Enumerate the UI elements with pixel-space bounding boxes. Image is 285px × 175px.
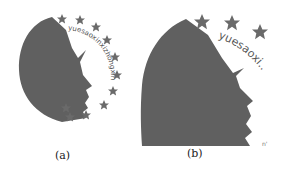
caption-a: (a) — [55, 149, 70, 162]
partial-text-b: n' — [262, 140, 268, 147]
figure-a: yuesaoxinxizhongxin — [19, 14, 122, 122]
figure-b: yuesaoxi.. n' — [141, 14, 270, 147]
caption-b: (b) — [187, 147, 203, 160]
figure-canvas: yuesaoxinxizhongxin yuesaoxi.. n' — [0, 0, 285, 175]
